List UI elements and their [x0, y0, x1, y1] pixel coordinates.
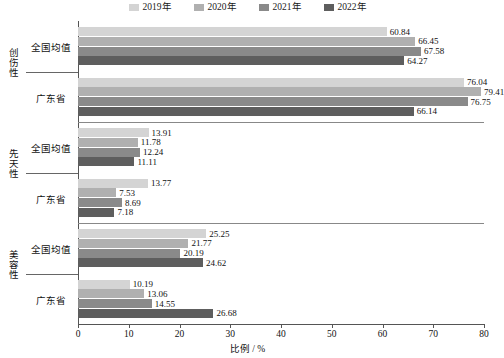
category-axis-label-创伤性: 创伤性	[6, 48, 20, 78]
bar-row: 25.25	[78, 229, 484, 238]
x-axis-tick-label: 10	[124, 329, 134, 339]
bar-value-label: 76.75	[471, 97, 491, 106]
bar-创伤性-广东省-2022年[interactable]	[78, 107, 414, 116]
bar-value-label: 24.62	[206, 258, 226, 267]
legend-item-2019年[interactable]: 2019年	[129, 3, 172, 13]
category-tick	[26, 173, 78, 174]
bar-先天性-广东省-2021年[interactable]	[78, 198, 122, 207]
x-axis-tick-label: 30	[226, 329, 236, 339]
bar-value-label: 13.77	[151, 179, 171, 188]
bar-value-label: 20.19	[183, 249, 203, 258]
bar-先天性-全国均值-2021年[interactable]	[78, 148, 140, 157]
bar-美容性-广东省-2022年[interactable]	[78, 309, 213, 318]
subgroup-label-全国均值: 全国均值	[26, 242, 76, 256]
x-axis-tick-label: 80	[479, 329, 489, 339]
bar-row: 11.11	[78, 157, 484, 166]
subgroup-label-广东省: 广东省	[26, 293, 76, 307]
bar-value-label: 60.84	[390, 27, 410, 36]
x-axis-tick	[78, 324, 79, 328]
x-axis-tick	[484, 324, 485, 328]
chart-legend: 2019年2020年2021年2022年	[0, 3, 495, 13]
bar-row: 8.69	[78, 198, 484, 207]
x-axis-title: 比例 / %	[0, 341, 495, 355]
bar-创伤性-全国均值-2022年[interactable]	[78, 56, 404, 65]
bar-row: 7.18	[78, 208, 484, 217]
legend-swatch-icon	[324, 4, 334, 11]
x-axis-tick	[383, 324, 384, 328]
category-tick	[26, 274, 78, 275]
category-axis-label-先天性: 先天性	[6, 149, 20, 179]
bar-value-label: 66.14	[417, 107, 437, 116]
bar-row: 10.19	[78, 280, 484, 289]
x-axis-tick-label: 40	[276, 329, 286, 339]
subgroup-label-广东省: 广东省	[26, 192, 76, 206]
bar-先天性-全国均值-2020年[interactable]	[78, 138, 138, 147]
category-tick	[26, 72, 78, 73]
legend-item-2020年[interactable]: 2020年	[194, 3, 237, 13]
category-separator	[78, 122, 484, 123]
bar-先天性-全国均值-2022年[interactable]	[78, 157, 134, 166]
subgroup-label-全国均值: 全国均值	[26, 141, 76, 155]
legend-swatch-icon	[259, 4, 269, 11]
bar-row: 66.14	[78, 107, 484, 116]
legend-swatch-icon	[194, 4, 204, 11]
x-axis-tick	[332, 324, 333, 328]
bar-美容性-全国均值-2019年[interactable]	[78, 229, 206, 238]
bar-row: 14.55	[78, 299, 484, 308]
bar-创伤性-广东省-2021年[interactable]	[78, 97, 468, 106]
bar-row: 13.91	[78, 128, 484, 137]
bar-value-label: 7.18	[117, 208, 133, 217]
bar-美容性-广东省-2021年[interactable]	[78, 299, 152, 308]
bar-row: 64.27	[78, 56, 484, 65]
bar-row: 79.41	[78, 87, 484, 96]
bar-美容性-全国均值-2021年[interactable]	[78, 249, 180, 258]
bar-先天性-全国均值-2019年[interactable]	[78, 128, 149, 137]
bar-row: 24.62	[78, 258, 484, 267]
bar-row: 76.04	[78, 78, 484, 87]
x-axis-tick	[433, 324, 434, 328]
x-axis-tick	[230, 324, 231, 328]
x-axis-tick-label: 0	[76, 329, 81, 339]
bar-value-label: 11.11	[137, 157, 157, 166]
legend-label: 2020年	[208, 3, 237, 13]
x-axis-tick	[129, 324, 130, 328]
x-axis-tick-label: 20	[175, 329, 185, 339]
bar-先天性-广东省-2020年[interactable]	[78, 188, 116, 197]
legend-item-2022年[interactable]: 2022年	[324, 3, 367, 13]
legend-label: 2022年	[338, 3, 367, 13]
bar-value-label: 64.27	[407, 56, 427, 65]
bar-美容性-广东省-2019年[interactable]	[78, 280, 130, 289]
legend-label: 2019年	[143, 3, 172, 13]
bar-创伤性-全国均值-2020年[interactable]	[78, 37, 415, 46]
legend-swatch-icon	[129, 4, 139, 11]
bar-row: 20.19	[78, 249, 484, 258]
bar-创伤性-全国均值-2019年[interactable]	[78, 27, 387, 36]
x-axis-tick	[281, 324, 282, 328]
bar-创伤性-全国均值-2021年[interactable]	[78, 47, 421, 56]
bar-美容性-全国均值-2022年[interactable]	[78, 258, 203, 267]
x-axis-tick	[180, 324, 181, 328]
bar-创伤性-广东省-2019年[interactable]	[78, 78, 464, 87]
x-axis-tick-label: 70	[429, 329, 439, 339]
x-axis-tick-label: 50	[327, 329, 337, 339]
bar-row: 11.78	[78, 138, 484, 147]
bar-row: 26.68	[78, 309, 484, 318]
category-separator	[78, 223, 484, 224]
bar-创伤性-广东省-2020年[interactable]	[78, 87, 481, 96]
bar-美容性-广东省-2020年[interactable]	[78, 289, 144, 298]
bar-美容性-全国均值-2020年[interactable]	[78, 239, 188, 248]
category-axis-label-美容性: 美容性	[6, 250, 20, 280]
plot-area: 60.8466.4567.5864.2776.0479.4176.7566.14…	[78, 21, 484, 324]
bar-先天性-广东省-2019年[interactable]	[78, 179, 148, 188]
bar-row: 21.77	[78, 239, 484, 248]
bar-value-label: 25.25	[209, 229, 229, 238]
legend-label: 2021年	[273, 3, 302, 13]
bar-先天性-广东省-2022年[interactable]	[78, 208, 114, 217]
subgroup-label-广东省: 广东省	[26, 91, 76, 105]
bar-value-label: 26.68	[216, 309, 236, 318]
bar-row: 13.77	[78, 179, 484, 188]
subgroup-label-全国均值: 全国均值	[26, 40, 76, 54]
legend-item-2021年[interactable]: 2021年	[259, 3, 302, 13]
bar-row: 13.06	[78, 289, 484, 298]
